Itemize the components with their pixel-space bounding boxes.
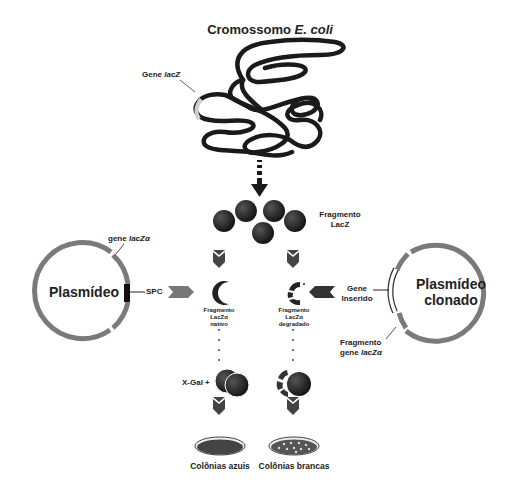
degraded-complex [277,370,311,397]
lacz-fragment-label: Fragmento gene lacZα [340,338,400,358]
page-title: Cromossomo E. coli [190,22,350,37]
left-plasmid-name: Plasmídeo [40,284,128,300]
blue-colonies-plate [195,437,245,455]
chromosome-gene-label: Gene lacZ [142,70,202,80]
right-plasmid-name: Plasmídeo clonado [406,276,496,308]
xgal-label: X-Gal + [182,378,216,388]
digest-arrow [251,160,268,197]
white-colonies-label: Colônias brancas [252,461,336,471]
chromosome-tangle [196,40,344,156]
white-colonies-plate [269,437,319,455]
lacz-pointer-line [180,80,195,92]
native-complex [215,369,249,397]
blue-colonies-label: Colônias azuis [180,461,260,471]
lacz-fragments [213,200,306,244]
right-chevron-arrow [309,286,335,298]
native-fragment-crescent [212,281,229,305]
diagram-canvas [0,0,516,489]
spc-label: SPC [146,287,176,297]
left-plasmid-gene-label: gene lacZα [108,234,168,244]
native-fragment-label: Fragmento LacZα nativo [199,307,239,328]
dotted-lines [218,329,294,361]
species-name: E. coli [295,22,333,37]
degraded-fragment-label: Fragmento LacZα degradado [272,307,316,328]
degraded-fragment [288,282,305,305]
inserted-gene-label: Gene Inserido [338,284,376,304]
fragment-lacz-label: Fragmento LacZ [310,210,370,230]
